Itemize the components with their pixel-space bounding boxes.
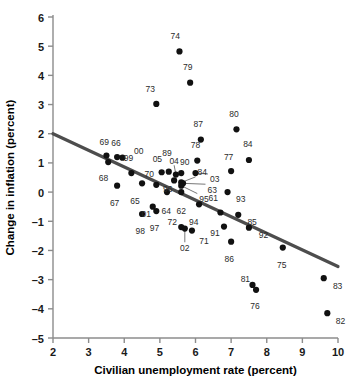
data-point-label-96: 96: [163, 184, 173, 194]
data-point-80[interactable]: [233, 126, 239, 132]
data-point-label-02: 02: [180, 243, 190, 253]
x-tick-label: 9: [299, 346, 305, 358]
data-point-95[interactable]: [178, 183, 184, 189]
data-point-66[interactable]: [114, 154, 120, 160]
data-point-label-62: 62: [177, 206, 187, 216]
data-point-label-04: 04: [169, 156, 179, 166]
y-tick-label: –1: [32, 216, 44, 228]
data-point-label-87: 87: [194, 119, 204, 129]
y-tick-label: 4: [38, 70, 45, 82]
data-point-71[interactable]: [189, 228, 195, 234]
data-point-label-94: 94: [189, 217, 199, 227]
data-point-81[interactable]: [249, 282, 255, 288]
data-point-73[interactable]: [153, 101, 159, 107]
x-tick-label: 4: [121, 346, 128, 358]
y-tick-label: 2: [38, 128, 44, 140]
data-point-70[interactable]: [153, 182, 159, 188]
data-point-label-69: 69: [100, 137, 110, 147]
data-point-label-90: 90: [180, 157, 190, 167]
data-point-label-01: 01: [142, 209, 152, 219]
data-point-label-65: 65: [130, 196, 140, 206]
data-point-65[interactable]: [139, 180, 145, 186]
data-point-label-67: 67: [110, 198, 120, 208]
data-point-78[interactable]: [194, 157, 200, 163]
data-point-02[interactable]: [182, 225, 188, 231]
x-tick-label: 6: [192, 346, 198, 358]
data-point-label-79: 79: [183, 62, 193, 72]
data-point-05[interactable]: [159, 169, 165, 175]
data-point-79[interactable]: [187, 80, 193, 86]
data-point-label-66: 66: [111, 138, 121, 148]
data-point-label-86: 86: [225, 254, 235, 264]
y-tick-label: –3: [32, 274, 44, 286]
data-point-label-95: 95: [199, 194, 209, 204]
data-point-label-73: 73: [146, 84, 156, 94]
data-point-label-63: 63: [207, 185, 217, 195]
x-tick-label: 8: [264, 346, 270, 358]
data-point-67[interactable]: [114, 183, 120, 189]
data-point-label-82: 82: [336, 316, 346, 326]
data-point-label-84: 84: [198, 167, 208, 177]
data-point-90[interactable]: [178, 170, 184, 176]
phillips-curve-scatter-chart: 6543210–1–2–3–4–523456789106162636465666…: [0, 0, 352, 384]
data-point-84[interactable]: [246, 157, 252, 163]
data-point-label-76: 76: [250, 301, 260, 311]
data-point-label-64: 64: [162, 206, 172, 216]
x-tick-label: 2: [50, 346, 56, 358]
data-point-76[interactable]: [253, 287, 259, 293]
point-leader-line: [183, 183, 205, 184]
y-axis-title: Change in inflation (percent): [4, 99, 16, 255]
data-point-label-75: 75: [277, 260, 287, 270]
data-point-61[interactable]: [217, 209, 223, 215]
data-point-label-80: 80: [229, 109, 239, 119]
data-point-69[interactable]: [103, 153, 109, 159]
data-point-label-85: 85: [247, 217, 257, 227]
data-point-82[interactable]: [324, 310, 330, 316]
data-point-label-74: 74: [170, 31, 180, 41]
x-axis-title: Civilian unemployment rate (percent): [94, 364, 297, 376]
data-point-89[interactable]: [166, 169, 172, 175]
data-point-86[interactable]: [228, 239, 234, 245]
y-tick-label: 5: [38, 41, 44, 53]
data-point-85[interactable]: [235, 212, 241, 218]
x-tick-label: 5: [157, 346, 163, 358]
data-point-label-00: 00: [134, 146, 144, 156]
x-tick-label: 7: [228, 346, 234, 358]
data-point-04[interactable]: [173, 171, 179, 177]
data-point-label-78: 78: [191, 140, 201, 150]
x-tick-label: 10: [332, 346, 344, 358]
data-point-68[interactable]: [105, 159, 111, 165]
data-point-62[interactable]: [178, 189, 184, 195]
data-point-83[interactable]: [321, 275, 327, 281]
data-point-label-71: 71: [199, 236, 209, 246]
y-tick-label: –2: [32, 245, 44, 257]
data-point-74[interactable]: [176, 48, 182, 54]
data-point-label-77: 77: [224, 152, 234, 162]
data-point-label-98: 98: [136, 226, 146, 236]
data-point-label-05: 05: [153, 154, 163, 164]
data-point-label-97: 97: [150, 223, 160, 233]
y-tick-label: 6: [38, 12, 44, 24]
data-point-99[interactable]: [128, 170, 134, 176]
data-point-93[interactable]: [224, 189, 230, 195]
data-point-label-83: 83: [333, 281, 343, 291]
data-point-label-68: 68: [99, 173, 109, 183]
data-point-label-93: 93: [236, 194, 246, 204]
data-point-label-72: 72: [168, 217, 178, 227]
y-tick-label: –5: [32, 333, 44, 345]
plot-area: 6543210–1–2–3–4–523456789106162636465666…: [0, 0, 352, 384]
data-point-label-92: 92: [259, 230, 269, 240]
y-tick-label: 1: [38, 157, 44, 169]
y-tick-label: 3: [38, 99, 44, 111]
data-point-label-70: 70: [144, 169, 154, 179]
data-point-label-99: 99: [124, 153, 134, 163]
data-point-91[interactable]: [221, 223, 227, 229]
data-point-label-84: 84: [243, 139, 253, 149]
x-tick-label: 3: [86, 346, 92, 358]
y-tick-label: 0: [38, 187, 44, 199]
data-point-96[interactable]: [171, 177, 177, 183]
data-point-77[interactable]: [228, 168, 234, 174]
trendline: [53, 134, 338, 267]
data-point-75[interactable]: [280, 244, 286, 250]
data-point-label-03: 03: [210, 174, 220, 184]
